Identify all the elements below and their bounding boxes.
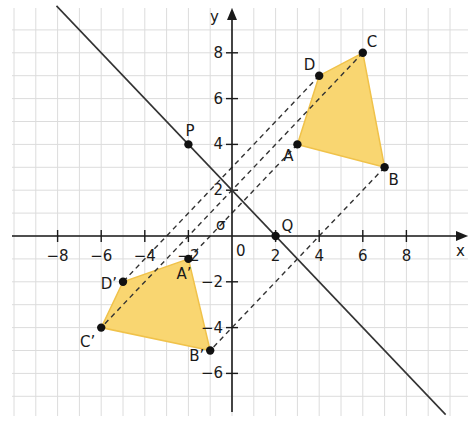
point-p-dot: [184, 140, 192, 148]
point-b-prime-label: B’: [189, 347, 204, 365]
y-tick-label: 6: [213, 90, 223, 108]
point-a-prime-dot: [184, 255, 192, 263]
coordinate-plane: −8−6−4−224688642−2−4−6 x y 0 σ ABCDA’B’C…: [0, 0, 468, 428]
point-d-prime-dot: [119, 278, 127, 286]
x-tick-label: −6: [90, 247, 112, 265]
line-sigma-label: σ: [216, 216, 226, 234]
grid: [12, 8, 468, 416]
point-d-dot: [315, 72, 323, 80]
x-axis-label: x: [456, 242, 465, 260]
point-b-dot: [380, 163, 388, 171]
point-b-label: B: [389, 171, 399, 189]
y-tick-label: 8: [213, 44, 223, 62]
point-a-label: A: [283, 147, 294, 165]
point-a-prime-label: A’: [176, 265, 191, 283]
point-c-dot: [359, 49, 367, 57]
y-tick-label: 2: [213, 181, 223, 199]
point-c-label: C: [367, 33, 377, 51]
y-tick-label: 4: [213, 135, 223, 153]
x-tick-label: 4: [314, 247, 324, 265]
y-axis-arrow-icon: [227, 8, 237, 20]
line-sigma: [57, 6, 446, 415]
point-q-label: Q: [282, 217, 294, 235]
point-a-dot: [293, 140, 301, 148]
y-axis-label: y: [210, 8, 219, 26]
point-c-prime-dot: [97, 323, 105, 331]
quadrilateral-abcd-image: [101, 259, 210, 351]
point-c-prime-label: C’: [80, 333, 95, 351]
y-tick-label: −2: [201, 273, 223, 291]
origin-label: 0: [236, 242, 246, 260]
point-d-label: D: [304, 56, 316, 74]
point-q-dot: [271, 232, 279, 240]
y-tick-label: −4: [201, 319, 223, 337]
x-tick-label: 6: [358, 247, 368, 265]
x-tick-label: 2: [271, 247, 281, 265]
point-d-prime-label: D’: [101, 275, 117, 293]
x-tick-label: −4: [134, 247, 156, 265]
x-axis-arrow-icon: [456, 231, 468, 241]
x-tick-label: 8: [402, 247, 412, 265]
y-tick-label: −6: [201, 364, 223, 382]
x-tick-label: −8: [47, 247, 69, 265]
point-b-prime-dot: [206, 346, 214, 354]
point-p-label: P: [185, 122, 194, 140]
